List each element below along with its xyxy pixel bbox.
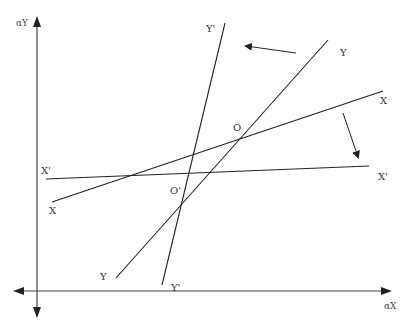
y-axis-label: αY xyxy=(16,18,29,28)
y-axis-up-arrow-icon xyxy=(33,16,41,27)
label-x-left: X xyxy=(49,205,57,216)
line-x-prime xyxy=(46,166,369,179)
label-y-top: Y xyxy=(339,47,347,58)
label-y-bottom: Y xyxy=(99,271,107,282)
label-y-prime-bottom: Y' xyxy=(170,282,180,293)
label-x-prime-left: X' xyxy=(41,165,51,176)
label-x-right: X xyxy=(380,95,388,106)
label-x-prime-right: X' xyxy=(378,171,388,182)
x-axis-left-arrow-icon xyxy=(13,287,24,295)
label-y-prime-top: Y' xyxy=(205,23,215,34)
x-axis xyxy=(13,287,392,295)
line-yy xyxy=(116,40,328,278)
point-o-label: O xyxy=(233,122,241,133)
shift-diagram: αY αX Y' Y X X' X' X Y Y' O O' xyxy=(0,0,411,327)
y-axis xyxy=(33,16,41,318)
point-o-prime-label: O' xyxy=(170,185,181,196)
x-axis-right-arrow-icon xyxy=(381,287,392,295)
shift-arrow-left-icon xyxy=(246,46,296,53)
shift-arrow-down-icon xyxy=(343,113,358,157)
line-xx xyxy=(52,91,383,202)
y-axis-down-arrow-icon xyxy=(33,307,41,318)
x-axis-label: αX xyxy=(384,301,397,311)
